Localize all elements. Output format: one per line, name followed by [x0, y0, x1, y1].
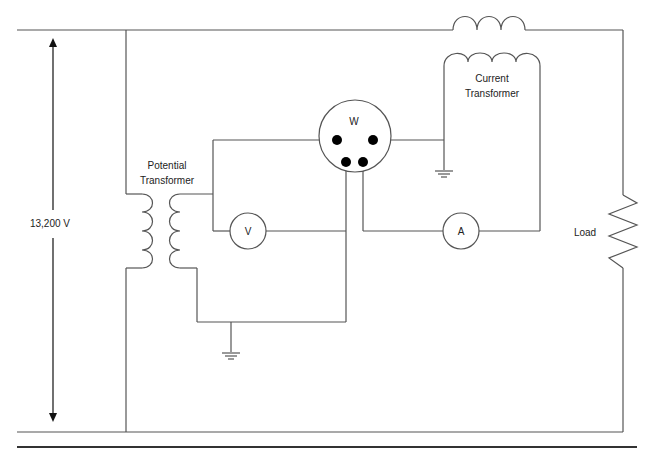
load-label: Load — [574, 227, 596, 238]
potential-transformer-primary — [126, 30, 153, 432]
ct-label-line2: Transformer — [465, 88, 520, 99]
wattmeter-terminal-voltage-b — [341, 157, 351, 167]
ammeter: A — [443, 213, 479, 249]
pt-secondary-coil-icon — [170, 194, 181, 268]
pt-label-line1: Potential — [148, 160, 187, 171]
wattmeter-terminal-current-b — [358, 157, 368, 167]
primary-line-top — [17, 17, 623, 31]
resistor-icon — [609, 195, 637, 268]
arrow-up-icon — [49, 38, 57, 47]
ammeter-label: A — [458, 226, 465, 237]
circuit-diagram: 13,200 V Load Potential Transformer — [0, 0, 655, 452]
ground-icon — [222, 353, 240, 359]
wattmeter: W — [319, 100, 391, 172]
voltmeter-label: V — [245, 226, 252, 237]
pt-primary-coil-icon — [142, 194, 153, 268]
ground-ct — [435, 171, 453, 177]
voltmeter: V — [230, 213, 266, 249]
voltage-label: 13,200 V — [30, 218, 70, 229]
ct-coil-icon — [444, 53, 540, 70]
primary-line-coil-icon — [453, 17, 525, 31]
arrow-down-icon — [49, 413, 57, 422]
voltage-arrow — [49, 38, 57, 422]
wattmeter-terminal-current-a — [368, 135, 378, 145]
load-branch — [609, 30, 637, 432]
wattmeter-terminal-voltage-a — [332, 135, 342, 145]
ground-pt — [222, 322, 240, 359]
wattmeter-label: W — [349, 116, 359, 127]
potential-transformer-secondary — [170, 194, 347, 322]
pt-label-line2: Transformer — [140, 175, 195, 186]
ct-label-line1: Current — [475, 73, 509, 84]
ground-icon — [435, 171, 453, 177]
